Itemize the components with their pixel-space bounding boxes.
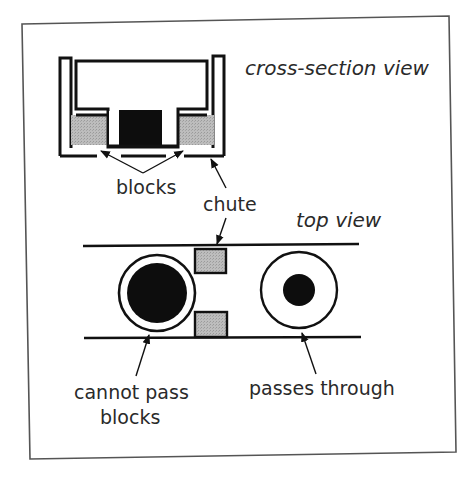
arrow-cannot-pass <box>136 335 149 376</box>
block-top-view-lower <box>195 312 227 337</box>
arrow-blocks-right <box>143 151 183 173</box>
disc-large-core-center <box>127 263 187 323</box>
label-cross-section-view: cross-section view <box>245 56 430 80</box>
cross-section-diagram <box>60 56 226 188</box>
arrow-blocks-left <box>101 151 143 173</box>
arrow-chute-down <box>217 218 226 244</box>
black-core-cross-section <box>119 110 162 146</box>
label-cannot-pass-line2: blocks <box>100 406 160 428</box>
top-view-diagram <box>83 218 361 376</box>
diagram-canvas: cross-section view blocks chute top view… <box>0 0 470 479</box>
block-top-view-upper <box>195 249 226 273</box>
block-left-cross-section <box>71 115 108 145</box>
arrow-chute-up <box>211 159 226 188</box>
arrow-passes-through <box>302 333 316 374</box>
chute-rail-top <box>83 244 359 246</box>
label-passes-through: passes through <box>249 377 395 399</box>
label-blocks: blocks <box>116 176 176 198</box>
label-top-view: top view <box>296 208 382 232</box>
disc-small-core-center <box>283 274 315 306</box>
label-chute: chute <box>203 193 257 215</box>
block-right-cross-section <box>178 115 214 145</box>
label-cannot-pass-line1: cannot pass <box>74 381 189 403</box>
